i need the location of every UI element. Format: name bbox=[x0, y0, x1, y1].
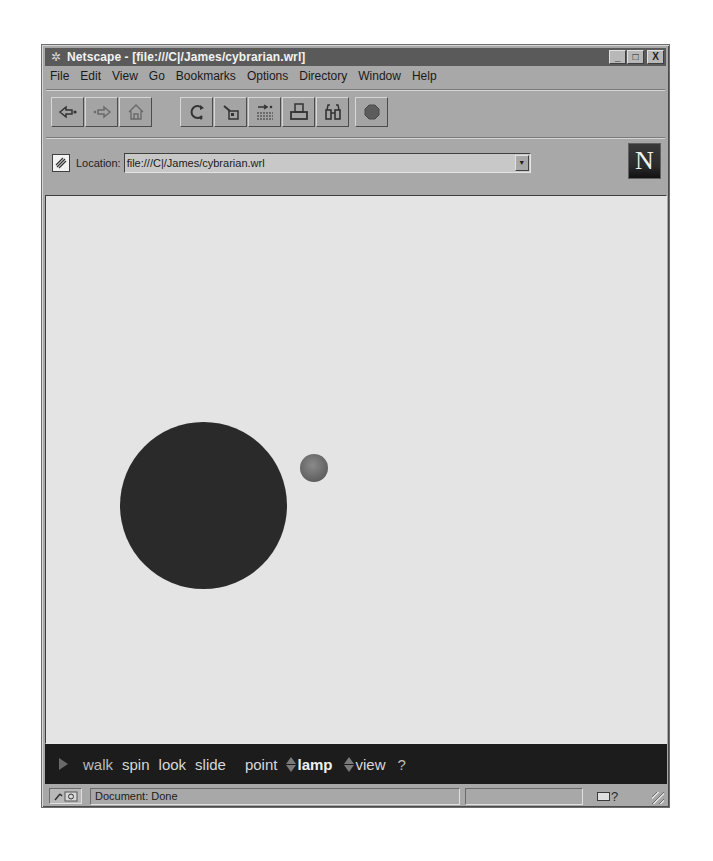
vrml-navigation-bar: walk spin look slide point lamp view ? bbox=[45, 744, 667, 784]
browser-window: ✲ Netscape - [file:///C|/James/cybrarian… bbox=[41, 44, 670, 808]
window-title: Netscape - [file:///C|/James/cybrarian.w… bbox=[67, 50, 305, 64]
status-text: Document: Done bbox=[90, 788, 460, 805]
mail-icon bbox=[597, 792, 610, 801]
netscape-logo[interactable]: N bbox=[628, 143, 661, 179]
vrml-viewport[interactable] bbox=[45, 195, 667, 744]
status-bar: Document: Done ? bbox=[45, 786, 666, 806]
home-button[interactable] bbox=[119, 97, 152, 127]
small-sphere[interactable] bbox=[300, 454, 328, 482]
maximize-button[interactable]: □ bbox=[627, 50, 644, 64]
location-bar: Location: file:///C|/James/cybrarian.wrl… bbox=[48, 149, 665, 177]
menu-bookmarks[interactable]: Bookmarks bbox=[176, 69, 236, 83]
nav-view[interactable]: view bbox=[355, 756, 385, 773]
find-button[interactable] bbox=[316, 97, 349, 127]
home-icon bbox=[125, 102, 147, 122]
location-url: file:///C|/James/cybrarian.wrl bbox=[127, 157, 265, 169]
mail-unknown: ? bbox=[611, 789, 618, 804]
back-button[interactable] bbox=[51, 97, 84, 127]
stop-button[interactable] bbox=[355, 97, 388, 127]
menu-bar: File Edit View Go Bookmarks Options Dire… bbox=[48, 67, 663, 85]
nav-spin[interactable]: spin bbox=[122, 756, 150, 773]
menu-file[interactable]: File bbox=[50, 69, 69, 83]
menu-window[interactable]: Window bbox=[358, 69, 401, 83]
open-button[interactable] bbox=[248, 97, 281, 127]
minimize-button[interactable]: _ bbox=[609, 50, 626, 64]
view-control[interactable]: view bbox=[344, 756, 385, 773]
menu-help[interactable]: Help bbox=[412, 69, 437, 83]
close-button[interactable]: X bbox=[647, 50, 664, 64]
binoculars-icon bbox=[322, 102, 344, 122]
nav-walk[interactable]: walk bbox=[83, 756, 113, 773]
print-button[interactable] bbox=[282, 97, 315, 127]
reload-icon bbox=[186, 102, 208, 122]
location-input[interactable]: file:///C|/James/cybrarian.wrl ▼ bbox=[124, 153, 531, 173]
forward-button[interactable] bbox=[85, 97, 118, 127]
lamp-control[interactable]: lamp bbox=[286, 756, 332, 773]
lamp-updown-icon[interactable] bbox=[286, 757, 296, 772]
forward-arrow-icon bbox=[91, 102, 113, 122]
menu-options[interactable]: Options bbox=[247, 69, 288, 83]
toolbar bbox=[51, 96, 389, 128]
print-icon bbox=[288, 102, 310, 122]
nav-lamp[interactable]: lamp bbox=[297, 756, 332, 773]
back-arrow-icon bbox=[57, 102, 79, 122]
menu-go[interactable]: Go bbox=[149, 69, 165, 83]
large-sphere[interactable] bbox=[120, 422, 287, 589]
menu-edit[interactable]: Edit bbox=[80, 69, 101, 83]
bookmark-link-icon[interactable] bbox=[52, 154, 70, 172]
play-icon[interactable] bbox=[59, 758, 68, 770]
view-updown-icon[interactable] bbox=[344, 757, 354, 772]
nav-help[interactable]: ? bbox=[398, 756, 406, 773]
menu-separator bbox=[46, 89, 665, 91]
reload-button[interactable] bbox=[180, 97, 213, 127]
title-bar[interactable]: ✲ Netscape - [file:///C|/James/cybrarian… bbox=[45, 48, 666, 66]
location-dropdown-button[interactable]: ▼ bbox=[515, 155, 529, 171]
open-icon bbox=[254, 102, 276, 122]
images-icon bbox=[220, 102, 242, 122]
security-key-icon[interactable] bbox=[49, 788, 82, 804]
netscape-app-icon: ✲ bbox=[48, 50, 64, 64]
mail-status[interactable]: ? bbox=[597, 789, 618, 804]
nav-point[interactable]: point bbox=[245, 756, 278, 773]
menu-directory[interactable]: Directory bbox=[299, 69, 347, 83]
nav-slide[interactable]: slide bbox=[195, 756, 226, 773]
menu-view[interactable]: View bbox=[112, 69, 138, 83]
toolbar-separator bbox=[46, 137, 665, 139]
resize-grip[interactable] bbox=[652, 792, 664, 804]
images-button[interactable] bbox=[214, 97, 247, 127]
nav-look[interactable]: look bbox=[159, 756, 187, 773]
location-label: Location: bbox=[76, 157, 121, 169]
progress-bar bbox=[465, 788, 583, 805]
stop-icon bbox=[361, 102, 383, 122]
